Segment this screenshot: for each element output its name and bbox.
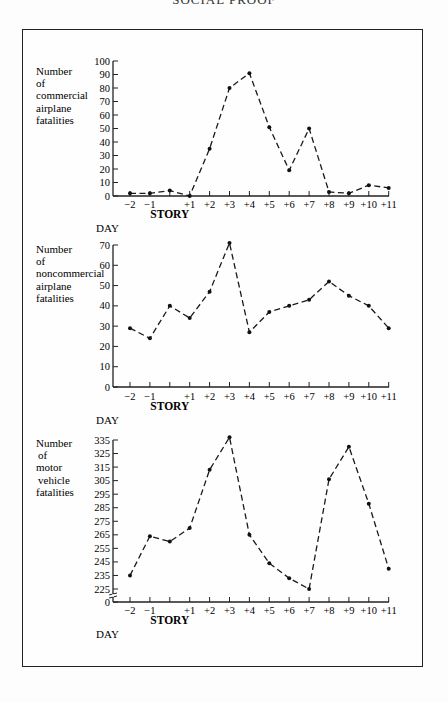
x-tick-label: +2 bbox=[204, 199, 215, 210]
data-point bbox=[307, 127, 311, 131]
x-tick-label: +10 bbox=[361, 199, 377, 210]
data-point bbox=[267, 125, 271, 129]
x-tick-label: +11 bbox=[381, 391, 397, 402]
y-tick-label: 50 bbox=[100, 123, 111, 134]
y-axis-label: Numberofmotorvehiclefatalities bbox=[36, 437, 74, 498]
data-point bbox=[168, 540, 172, 544]
data-line bbox=[130, 437, 389, 589]
y-tick-label: 335 bbox=[94, 435, 110, 446]
x-tick-label: +8 bbox=[323, 199, 334, 210]
data-point bbox=[307, 587, 311, 591]
data-point bbox=[188, 194, 192, 198]
data-point bbox=[247, 330, 251, 334]
y-tick-label: 70 bbox=[100, 240, 111, 251]
story-day-label: STORY bbox=[150, 400, 190, 412]
x-tick-label: +2 bbox=[204, 391, 215, 402]
data-point bbox=[307, 298, 311, 302]
data-point bbox=[208, 147, 212, 151]
x-tick-label: +7 bbox=[304, 199, 315, 210]
y-tick-label: 30 bbox=[100, 321, 111, 332]
chart-panel-1: Numberofcommercialairplanefatalities1009… bbox=[36, 56, 397, 235]
data-point bbox=[208, 468, 212, 472]
y-tick-label: 285 bbox=[94, 502, 110, 513]
data-point bbox=[208, 290, 212, 294]
data-point bbox=[188, 316, 192, 320]
y-tick-label: 10 bbox=[100, 361, 111, 372]
x-tick-label: +6 bbox=[284, 391, 295, 402]
x-tick-label: +5 bbox=[264, 199, 275, 210]
y-tick-label: 255 bbox=[94, 543, 110, 554]
data-point bbox=[267, 561, 271, 565]
x-tick-label: +2 bbox=[204, 605, 215, 616]
x-tick-label: +8 bbox=[323, 605, 334, 616]
data-point bbox=[148, 336, 152, 340]
y-tick-label: 30 bbox=[100, 150, 111, 161]
story-day-label: STORY bbox=[150, 614, 190, 626]
x-tick-label: +10 bbox=[361, 391, 377, 402]
data-point bbox=[327, 190, 331, 194]
y-tick-label: 295 bbox=[94, 489, 110, 500]
data-point bbox=[168, 189, 172, 193]
data-point bbox=[287, 168, 291, 172]
x-tick-label: −2 bbox=[124, 391, 135, 402]
x-tick-label: +11 bbox=[381, 605, 397, 616]
data-point bbox=[347, 294, 351, 298]
y-tick-label: 235 bbox=[94, 570, 110, 581]
y-tick-label: 10 bbox=[100, 177, 111, 188]
x-tick-label: +10 bbox=[361, 605, 377, 616]
data-point bbox=[367, 502, 371, 506]
data-point bbox=[128, 191, 132, 195]
data-point bbox=[168, 304, 172, 308]
y-tick-label: 0 bbox=[105, 382, 110, 393]
y-tick-label: 305 bbox=[94, 475, 110, 486]
x-tick-label: +4 bbox=[244, 605, 256, 616]
data-point bbox=[287, 576, 291, 580]
y-tick-label: 100 bbox=[94, 56, 110, 67]
data-line bbox=[130, 73, 389, 196]
x-tick-label: +6 bbox=[284, 199, 295, 210]
x-axis-label: DAY bbox=[96, 222, 119, 234]
y-tick-label: 60 bbox=[100, 110, 111, 121]
x-tick-label: +4 bbox=[244, 199, 256, 210]
data-point bbox=[148, 534, 152, 538]
y-tick-label: 40 bbox=[100, 300, 111, 311]
data-point bbox=[347, 445, 351, 449]
x-axis-label: DAY bbox=[96, 628, 119, 640]
x-tick-label: +6 bbox=[284, 605, 295, 616]
data-point bbox=[367, 304, 371, 308]
data-point bbox=[247, 533, 251, 537]
chart-panel-2: Numberofnoncommercialairplanefatalities7… bbox=[36, 240, 397, 427]
data-point bbox=[247, 71, 251, 75]
data-line bbox=[130, 243, 389, 338]
y-tick-label: 70 bbox=[100, 96, 111, 107]
y-axis-label: Numberofnoncommercialairplanefatalities bbox=[36, 243, 104, 304]
y-tick-label: 265 bbox=[94, 529, 110, 540]
data-point bbox=[387, 326, 391, 330]
data-point bbox=[327, 280, 331, 284]
x-tick-label: +4 bbox=[244, 391, 256, 402]
y-tick-label: 245 bbox=[94, 556, 110, 567]
data-point bbox=[128, 326, 132, 330]
x-tick-label: +7 bbox=[304, 605, 315, 616]
y-tick-label: 40 bbox=[100, 137, 111, 148]
x-tick-label: +11 bbox=[381, 199, 397, 210]
x-axis-label: DAY bbox=[96, 414, 119, 426]
figure-canvas: Numberofcommercialairplanefatalities1009… bbox=[0, 0, 448, 702]
x-tick-label: +7 bbox=[304, 391, 315, 402]
data-point bbox=[267, 310, 271, 314]
data-point bbox=[228, 435, 232, 439]
y-tick-label: 60 bbox=[100, 260, 111, 271]
chart-panel-3: Numberofmotorvehiclefatalities3353253153… bbox=[36, 435, 397, 641]
data-point bbox=[327, 477, 331, 481]
data-point bbox=[148, 191, 152, 195]
y-tick-label: 20 bbox=[100, 341, 111, 352]
x-tick-label: +5 bbox=[264, 391, 275, 402]
x-tick-label: +8 bbox=[323, 391, 334, 402]
x-tick-label: +9 bbox=[343, 391, 354, 402]
data-point bbox=[287, 304, 291, 308]
data-point bbox=[228, 241, 232, 245]
x-tick-label: −2 bbox=[124, 199, 135, 210]
y-tick-label: 90 bbox=[100, 69, 111, 80]
data-point bbox=[387, 186, 391, 190]
y-tick-label: 225 bbox=[94, 584, 110, 595]
